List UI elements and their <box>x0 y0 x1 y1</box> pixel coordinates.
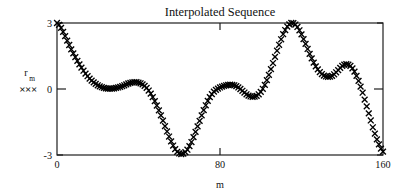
y-axis-label-subscript: m <box>29 74 35 83</box>
x-axis-label: m <box>216 179 224 190</box>
xtick-label-0: 0 <box>54 159 59 170</box>
legend-marker-symbol: ××× <box>19 83 37 95</box>
interpolated-sequence-chart: Interpolated Sequence 0 80 160 m 3 0 -3 … <box>0 0 410 194</box>
ytick-label-3: 3 <box>47 18 52 29</box>
ytick-label-neg3: -3 <box>44 150 53 161</box>
xtick-label-80: 80 <box>215 159 225 170</box>
ytick-label-0: 0 <box>47 84 52 95</box>
chart-title: Interpolated Sequence <box>165 5 276 19</box>
data-marker-group <box>54 20 386 157</box>
y-axis-label: r <box>24 67 28 78</box>
xtick-label-160: 160 <box>375 159 390 170</box>
chart-figure: Interpolated Sequence 0 80 160 m 3 0 -3 … <box>0 0 410 194</box>
